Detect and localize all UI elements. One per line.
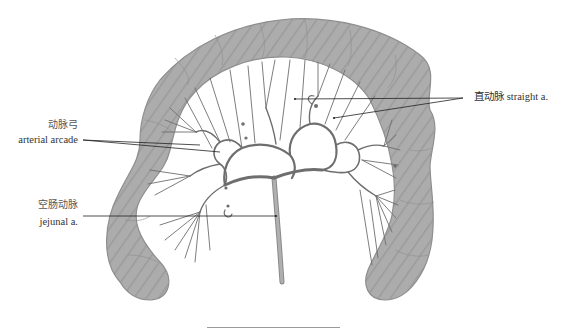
anatomy-figure: 直动脉 straight a. 动脉弓 arterial arcade 空肠动脉… [0, 0, 575, 330]
label-jejunal-artery-en: jejunal a. [36, 216, 78, 228]
bottom-rule [207, 327, 340, 328]
label-arterial-arcade-en: arterial arcade [18, 134, 78, 146]
jejunum-illustration [0, 0, 575, 330]
label-straight-artery: 直动脉 straight a. [474, 91, 548, 103]
leader-endpoints [275, 98, 335, 217]
label-arterial-arcade-cn: 动脉弓 [40, 119, 78, 131]
leader-straight-a-1 [295, 98, 463, 99]
jejunum-loop [107, 19, 435, 300]
label-jejunal-artery-cn: 空肠动脉 [34, 199, 78, 211]
